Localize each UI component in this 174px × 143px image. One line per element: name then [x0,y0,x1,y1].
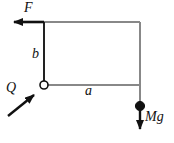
dimension-b-label: b [32,47,39,61]
force-f-label: F [24,1,33,15]
dimension-a-label: a [85,84,92,98]
force-q-arrow [8,95,34,116]
mechanics-diagram: F b a Q Mg [0,0,174,143]
force-q-label: Q [6,81,16,95]
pivot-icon [40,81,48,89]
weight-mg-label: Mg [145,110,164,124]
